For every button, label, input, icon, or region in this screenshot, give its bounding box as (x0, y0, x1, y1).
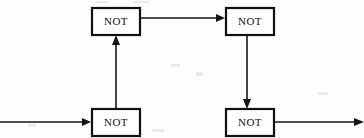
gate-not-bottom-left[interactable]: NOT (92, 109, 140, 136)
diagram-canvas: NOT NOT NOT NOT (0, 0, 364, 138)
gate-not-bottom-left-label: NOT (104, 116, 128, 128)
gate-not-top-right-label: NOT (238, 15, 262, 27)
wire-input-to-not-bottom-left (0, 118, 91, 126)
wire-not-top-right-to-not-bottom-right (243, 35, 251, 109)
gate-not-top-right[interactable]: NOT (226, 8, 274, 35)
logic-gate-diagram: NOT NOT NOT NOT (0, 0, 364, 138)
gate-not-top-left[interactable]: NOT (92, 8, 140, 35)
gate-not-bottom-right[interactable]: NOT (226, 109, 274, 136)
wire-not-bottom-right-to-output (274, 118, 364, 126)
scan-noise (28, 1, 328, 132)
wire-not-bottom-left-to-not-top-left (112, 35, 120, 109)
gate-not-top-left-label: NOT (104, 15, 128, 27)
wire-not-top-left-to-not-top-right (140, 14, 225, 22)
gate-not-bottom-right-label: NOT (238, 116, 262, 128)
